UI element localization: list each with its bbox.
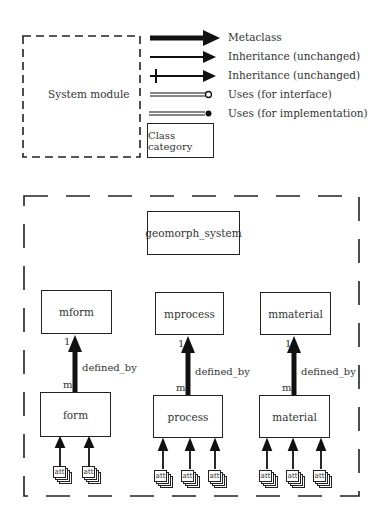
legend-inheritance-crossed-label: Inheritance (unchanged): [228, 69, 360, 81]
legend-class-category-box: Class category: [147, 123, 214, 158]
class-box-material: material: [259, 395, 330, 438]
legend-uses-implementation-icon: [149, 111, 212, 117]
class-label: material: [272, 411, 317, 423]
legend-uses-interface-label: Uses (for interface): [228, 88, 332, 100]
attribute-label: att: [82, 466, 95, 478]
attribute-label: att: [208, 470, 221, 482]
metaclass-label: mform: [59, 306, 94, 318]
class-label: process: [168, 411, 209, 423]
legend-class-category-label: Class category: [148, 130, 213, 152]
attribute-label: att: [181, 470, 194, 482]
attribute-stack: att: [53, 466, 66, 478]
metaclass-label: mmaterial: [268, 308, 323, 320]
attribute-stack: att: [154, 470, 167, 482]
relation-label: defined_by: [82, 362, 137, 373]
attribute-stack: att: [181, 470, 194, 482]
legend-metaclass-label: Metaclass: [228, 31, 282, 43]
metaclass-label: mprocess: [164, 308, 215, 320]
multiplicity-lower: m: [282, 382, 291, 393]
geomorph-system-label: geomorph_system: [145, 227, 241, 239]
multiplicity-upper: 1: [178, 338, 184, 349]
attribute-label: att: [313, 470, 326, 482]
legend-system-module-label: System module: [48, 88, 130, 100]
attribute-arrows-process: [159, 440, 219, 469]
legend-inheritance-arrow-icon: [150, 51, 216, 63]
attribute-stack: att: [313, 470, 326, 482]
metaclass-box-mmaterial: mmaterial: [260, 292, 331, 335]
legend-inheritance-crossed-arrow-icon: [150, 69, 216, 83]
multiplicity-upper: 1: [64, 336, 70, 347]
attribute-stack: att: [208, 470, 221, 482]
legend-uses-interface-icon: [150, 92, 212, 98]
relation-label: defined_by: [301, 366, 356, 377]
attribute-stack: att: [259, 470, 272, 482]
attribute-stack: att: [82, 466, 95, 478]
metaclass-box-mform: mform: [41, 290, 112, 334]
geomorph-system-box: geomorph_system: [147, 211, 240, 255]
multiplicity-lower: m: [63, 379, 72, 390]
attribute-arrows-form: [56, 438, 93, 466]
metaclass-box-mprocess: mprocess: [155, 292, 224, 335]
class-box-form: form: [40, 392, 111, 437]
attribute-label: att: [286, 470, 299, 482]
legend-inheritance-label: Inheritance (unchanged): [228, 50, 360, 62]
multiplicity-lower: m: [176, 382, 185, 393]
relation-label: defined_by: [195, 366, 250, 377]
attribute-label: att: [53, 466, 66, 478]
attribute-label: att: [154, 470, 167, 482]
legend-metaclass-arrow-icon: [150, 30, 220, 46]
attribute-stack: att: [286, 470, 299, 482]
class-label: form: [63, 409, 88, 421]
legend-uses-implementation-label: Uses (for implementation): [228, 107, 368, 119]
attribute-arrows-material: [263, 440, 325, 469]
attribute-label: att: [259, 470, 272, 482]
class-box-process: process: [153, 395, 223, 438]
multiplicity-upper: 1: [285, 338, 291, 349]
